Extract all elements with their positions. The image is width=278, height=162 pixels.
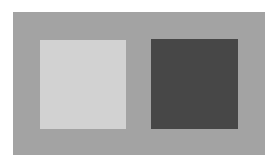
gray-background-panel [13, 12, 265, 155]
dark-square [151, 39, 238, 129]
light-square [40, 40, 126, 129]
